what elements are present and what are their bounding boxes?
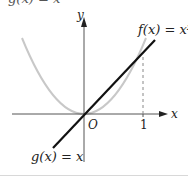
bottom-divider <box>0 175 188 176</box>
origin-label: O <box>88 119 98 131</box>
y-axis-label: y <box>77 9 84 21</box>
line-label: g(x) = x <box>31 150 83 163</box>
x-axis-arrow-icon <box>159 111 168 117</box>
x-axis-label: x <box>171 108 178 120</box>
x-tick-label-1: 1 <box>140 119 148 131</box>
function-graph: g(x) = x y x O 1 f(x) = x² g(x) = x <box>0 0 188 177</box>
top-cutoff-label: g(x) = x <box>8 0 60 5</box>
parabola-label: f(x) = x² <box>138 23 188 36</box>
